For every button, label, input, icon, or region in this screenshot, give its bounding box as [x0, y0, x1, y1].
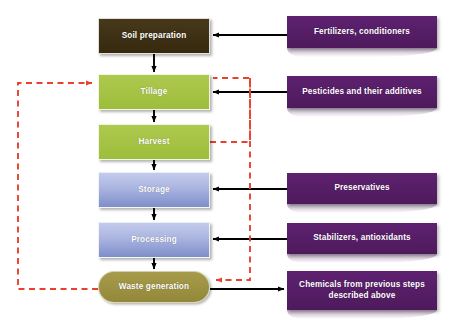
node-fertilizers[interactable]: Fertilizers, conditioners: [287, 16, 437, 48]
node-pesticides-label: Pesticides and their additives: [302, 87, 422, 97]
node-tillage-label: Tillage: [141, 87, 168, 97]
node-stabilizers[interactable]: Stabilizers, antioxidants: [287, 223, 437, 254]
feedback-waste-to-tillage: [18, 83, 98, 289]
node-pesticides[interactable]: Pesticides and their additives: [287, 76, 437, 108]
node-storage-label: Storage: [138, 185, 170, 195]
node-fertilizers-label: Fertilizers, conditioners: [314, 27, 410, 37]
node-soil-preparation[interactable]: Soil preparation: [98, 18, 210, 54]
flow-diagram: Soil preparation Tillage Harvest Storage…: [0, 0, 453, 329]
feedback-tillage-to-waste: [216, 78, 250, 280]
node-harvest[interactable]: Harvest: [98, 124, 210, 160]
node-waste-generation-label: Waste generation: [119, 282, 189, 292]
node-storage[interactable]: Storage: [98, 172, 210, 208]
node-processing[interactable]: Processing: [98, 222, 210, 258]
node-tillage[interactable]: Tillage: [98, 74, 210, 110]
feedback-harvest-to-tillage: [210, 78, 250, 142]
node-soil-preparation-label: Soil preparation: [122, 31, 187, 41]
node-harvest-label: Harvest: [138, 137, 169, 147]
node-waste-generation[interactable]: Waste generation: [98, 271, 210, 303]
node-chemicals-previous-steps[interactable]: Chemicals from previous steps described …: [287, 271, 437, 310]
node-chemicals-previous-steps-label: Chemicals from previous steps described …: [299, 280, 425, 301]
node-processing-label: Processing: [131, 235, 177, 245]
node-stabilizers-label: Stabilizers, antioxidants: [313, 233, 410, 243]
node-preservatives[interactable]: Preservatives: [287, 173, 437, 204]
chemicals-label-line2: described above: [329, 291, 396, 300]
chemicals-label-line1: Chemicals from previous steps: [299, 280, 425, 289]
node-preservatives-label: Preservatives: [334, 183, 389, 193]
